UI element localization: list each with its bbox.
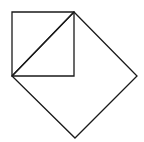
background xyxy=(0,0,144,142)
geometry-diagram xyxy=(0,0,144,142)
